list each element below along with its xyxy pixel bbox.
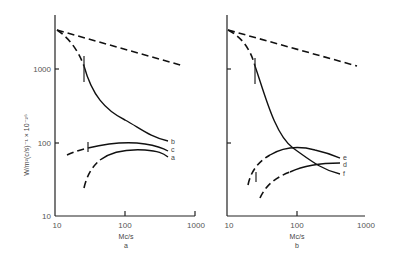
- curve-label-d: d: [343, 161, 347, 168]
- x-tick-10: 10: [53, 221, 62, 230]
- y-axis-label: W/m²(c/s)⁻¹ × 10⁻²⁶: [23, 114, 31, 176]
- curve-b: [84, 66, 168, 141]
- panel-caption-a: a: [124, 242, 128, 249]
- x-tick-10: 10: [225, 221, 234, 230]
- panel-caption-b: b: [295, 242, 299, 249]
- x-axis-label-b: Mc/s: [290, 233, 305, 240]
- curve-label-f: f: [343, 170, 345, 177]
- curve-a: [100, 150, 168, 160]
- curve-f: [255, 66, 340, 174]
- x-tick-1000: 1000: [187, 221, 205, 230]
- reference-line-a: [57, 30, 184, 66]
- x-tick-100: 100: [290, 221, 304, 230]
- x-tick-1000: 1000: [357, 221, 375, 230]
- y-tick-1000: 1000: [33, 65, 51, 74]
- panel-a: 1000 100 10 10 100 1000 Mc/s a W/m²(c/s)…: [23, 15, 205, 249]
- curve-label-e: e: [343, 154, 347, 161]
- x-axis-label-a: Mc/s: [119, 233, 134, 240]
- figure: 1000 100 10 10 100 1000 Mc/s a W/m²(c/s)…: [0, 0, 397, 263]
- x-tick-100: 100: [118, 221, 132, 230]
- curve-label-c: c: [171, 146, 175, 153]
- curve-d: [290, 163, 340, 172]
- curve-label-a: a: [171, 154, 175, 161]
- panel-b: 10 100 1000 Mc/s b e d f: [225, 15, 376, 249]
- y-tick-10: 10: [42, 212, 51, 221]
- y-tick-100: 100: [38, 139, 52, 148]
- curve-label-b: b: [171, 138, 175, 145]
